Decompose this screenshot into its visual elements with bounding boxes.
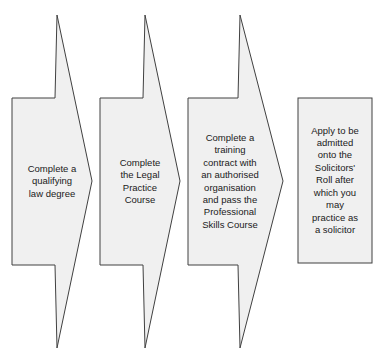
flow-shape-1[interactable]: [12, 15, 92, 348]
flow-shape-3[interactable]: [188, 15, 283, 348]
flow-shape-4[interactable]: [298, 98, 372, 263]
flowchart-shapes: [0, 0, 388, 362]
flow-shape-2[interactable]: [100, 15, 180, 348]
flowchart-canvas: Complete a qualifying law degree Complet…: [0, 0, 388, 362]
